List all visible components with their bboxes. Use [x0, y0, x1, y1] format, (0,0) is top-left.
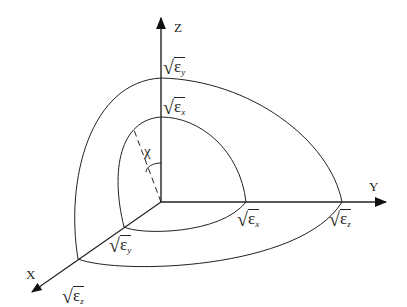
diagram-canvas: [0, 0, 407, 307]
yz-outer-arc: [161, 78, 342, 202]
xz-inner-arc: [118, 117, 161, 227]
xy-inner-arc: [124, 202, 246, 231]
yz-inner-arc: [161, 117, 246, 202]
y-inner-sqrt-label: √εx: [237, 207, 259, 229]
z-inner-sqrt-label: √εx: [163, 95, 185, 117]
x-inner-sqrt-label: √εy: [109, 233, 131, 255]
x-outer-sqrt-label: √εz: [62, 284, 84, 306]
z-outer-sqrt-label: √εy: [163, 55, 185, 77]
chi-angle-arc: [146, 163, 161, 172]
y-axis-label: Y: [369, 180, 378, 193]
dashed-vector: [134, 130, 161, 202]
x-axis-label: X: [26, 268, 35, 281]
z-axis-label: Z: [174, 21, 182, 34]
chi-angle-label: χ: [144, 143, 151, 160]
y-outer-sqrt-label: √εz: [329, 207, 351, 229]
x-axis: [32, 202, 161, 292]
